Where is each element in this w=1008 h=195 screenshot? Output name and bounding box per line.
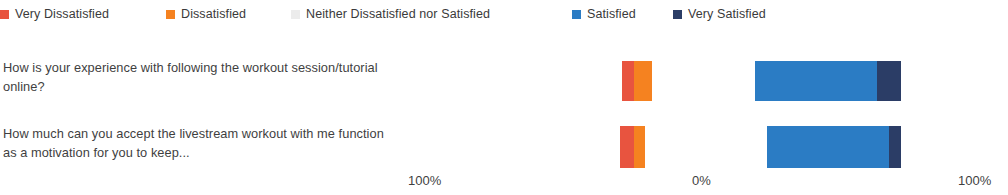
- legend-swatch-very-dissatisfied: [0, 10, 9, 19]
- bar-segment-dissatisfied[interactable]: [634, 126, 645, 168]
- legend-item-dissatisfied[interactable]: Dissatisfied: [166, 7, 246, 21]
- bar-segment-very-dissatisfied[interactable]: [620, 126, 634, 168]
- x-axis: 100% 0% 100%: [0, 172, 1008, 192]
- stacked-bar: [0, 58, 1008, 104]
- legend-item-satisfied[interactable]: Satisfied: [572, 7, 636, 21]
- legend-label-very-satisfied: Very Satisfied: [688, 7, 766, 21]
- bar-segment-dissatisfied[interactable]: [634, 61, 652, 101]
- legend-item-very-dissatisfied[interactable]: Very Dissatisfied: [0, 7, 109, 21]
- bar-segment-satisfied[interactable]: [767, 126, 889, 168]
- legend-swatch-dissatisfied: [166, 10, 175, 19]
- stacked-bar: [0, 124, 1008, 170]
- chart-legend: Very Dissatisfied Dissatisfied Neither D…: [0, 3, 1008, 25]
- legend-swatch-very-satisfied: [673, 10, 682, 19]
- chart-row: How much can you accept the livestream w…: [0, 124, 1008, 174]
- legend-item-very-satisfied[interactable]: Very Satisfied: [673, 7, 766, 21]
- chart-row: How is your experience with following th…: [0, 58, 1008, 108]
- legend-label-neither-dissatisfied-nor-satisfied: Neither Dissatisfied nor Satisfied: [306, 7, 490, 21]
- axis-tick-label: 0%: [692, 172, 711, 190]
- axis-tick-label: 100%: [958, 172, 991, 190]
- legend-label-very-dissatisfied: Very Dissatisfied: [15, 7, 109, 21]
- legend-swatch-neither-dissatisfied-nor-satisfied: [291, 10, 300, 19]
- bar-segment-very-satisfied[interactable]: [889, 126, 901, 168]
- legend-label-dissatisfied: Dissatisfied: [181, 7, 246, 21]
- bar-segment-very-satisfied[interactable]: [877, 61, 901, 101]
- legend-label-satisfied: Satisfied: [587, 7, 636, 21]
- axis-tick-label: 100%: [408, 172, 441, 190]
- bar-segment-satisfied[interactable]: [755, 61, 877, 101]
- legend-swatch-satisfied: [572, 10, 581, 19]
- legend-item-neither-dissatisfied-nor-satisfied[interactable]: Neither Dissatisfied nor Satisfied: [291, 7, 490, 21]
- bar-segment-very-dissatisfied[interactable]: [622, 61, 634, 101]
